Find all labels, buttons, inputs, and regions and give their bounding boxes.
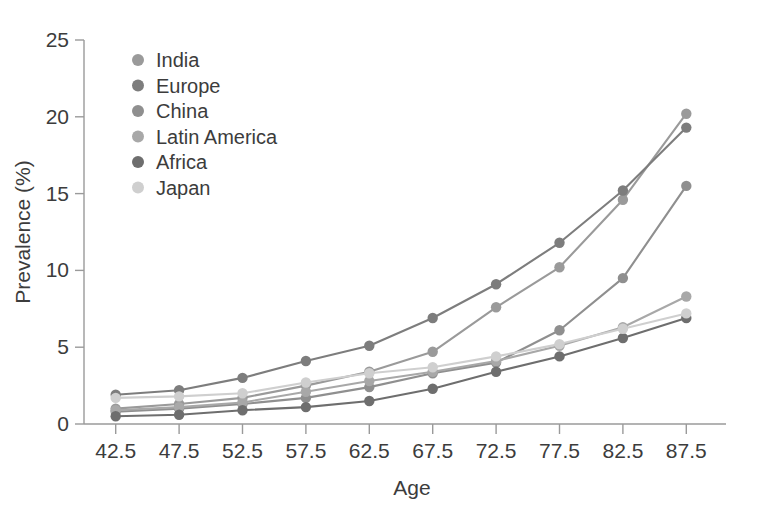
chart-legend: IndiaEuropeChinaLatin AmericaAfricaJapan (132, 49, 278, 199)
data-point-marker (428, 362, 438, 372)
data-point-marker (428, 384, 438, 394)
legend-item-label: Europe (156, 75, 221, 97)
data-point-marker (301, 402, 311, 412)
data-point-marker (618, 333, 628, 343)
legend-item-africa[interactable]: Africa (132, 151, 208, 173)
y-tick-label: 0 (57, 412, 69, 435)
data-point-marker (491, 367, 501, 377)
legend-item-india[interactable]: India (132, 49, 200, 71)
y-tick-label: 5 (57, 335, 69, 358)
legend-item-label: Japan (156, 177, 211, 199)
x-tick-label: 52.5 (222, 439, 263, 462)
legend-item-label: India (156, 49, 200, 71)
data-point-marker (618, 185, 628, 195)
data-point-marker (174, 391, 184, 401)
data-point-marker (237, 405, 247, 415)
data-point-marker (618, 195, 628, 205)
data-point-marker (301, 356, 311, 366)
data-point-marker (364, 368, 374, 378)
x-axis-title: Age (393, 476, 430, 499)
x-tick-label: 67.5 (412, 439, 453, 462)
data-point-marker (554, 262, 564, 272)
series-path (116, 186, 687, 412)
legend-item-latin-america[interactable]: Latin America (132, 126, 278, 148)
data-point-marker (491, 302, 501, 312)
data-point-marker (491, 351, 501, 361)
data-point-marker (554, 325, 564, 335)
legend-swatch-icon (132, 54, 144, 66)
series-china (111, 181, 692, 417)
data-point-marker (364, 341, 374, 351)
y-tick-label: 20 (46, 105, 69, 128)
legend-swatch-icon (132, 156, 144, 168)
data-point-marker (111, 393, 121, 403)
legend-swatch-icon (132, 105, 144, 117)
x-tick-label: 62.5 (349, 439, 390, 462)
data-point-marker (681, 122, 691, 132)
data-point-marker (491, 279, 501, 289)
x-tick-label: 47.5 (159, 439, 200, 462)
x-tick-label: 82.5 (602, 439, 643, 462)
data-point-marker (364, 396, 374, 406)
data-point-marker (428, 313, 438, 323)
x-tick-label: 87.5 (666, 439, 707, 462)
data-point-marker (301, 387, 311, 397)
data-point-marker (111, 411, 121, 421)
y-axis-title: Prevalence (%) (11, 160, 34, 304)
data-point-marker (681, 291, 691, 301)
legend-item-label: Latin America (156, 126, 278, 148)
data-point-marker (681, 308, 691, 318)
data-point-marker (237, 388, 247, 398)
legend-swatch-icon (132, 182, 144, 194)
data-point-marker (428, 347, 438, 357)
prevalence-by-age-chart: 051015202542.547.552.557.562.567.572.577… (0, 0, 762, 519)
x-tick-label: 42.5 (95, 439, 136, 462)
legend-item-china[interactable]: China (132, 100, 209, 122)
legend-swatch-icon (132, 131, 144, 143)
x-tick-label: 77.5 (539, 439, 580, 462)
data-point-marker (681, 109, 691, 119)
y-tick-label: 10 (46, 258, 69, 281)
series-japan (111, 308, 692, 403)
legend-item-label: Africa (156, 151, 208, 173)
legend-item-europe[interactable]: Europe (132, 75, 221, 97)
series-path (116, 297, 687, 411)
data-point-marker (554, 339, 564, 349)
chart-canvas: 051015202542.547.552.557.562.567.572.577… (0, 0, 762, 519)
data-point-marker (618, 324, 628, 334)
legend-swatch-icon (132, 80, 144, 92)
data-point-marker (681, 181, 691, 191)
data-point-marker (301, 377, 311, 387)
x-tick-label: 57.5 (285, 439, 326, 462)
y-tick-label: 25 (46, 28, 69, 51)
legend-item-label: China (156, 100, 209, 122)
data-point-marker (174, 410, 184, 420)
data-point-marker (237, 373, 247, 383)
legend-item-japan[interactable]: Japan (132, 177, 211, 199)
data-point-marker (554, 351, 564, 361)
data-point-marker (618, 273, 628, 283)
series-latin-america (111, 291, 692, 415)
y-tick-label: 15 (46, 182, 69, 205)
data-point-marker (554, 238, 564, 248)
x-tick-label: 72.5 (476, 439, 517, 462)
